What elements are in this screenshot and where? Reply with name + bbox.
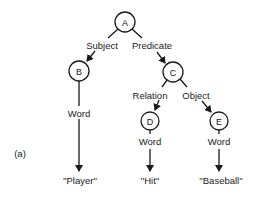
panel-label: (a) bbox=[14, 148, 26, 159]
node-c-label: C bbox=[170, 68, 177, 78]
edge-label-relation: Relation bbox=[133, 90, 168, 101]
edge-relation: Relation bbox=[133, 80, 168, 110]
edge-predicate-arrow bbox=[157, 52, 165, 63]
edge-subject: Subject bbox=[86, 29, 118, 61]
edge-relation-upper bbox=[162, 80, 167, 87]
edge-word-player: Word bbox=[68, 81, 91, 171]
edge-word-hit: Word bbox=[139, 130, 162, 171]
leaf-player: ''Player'' bbox=[63, 175, 97, 186]
edge-label-object: Object bbox=[182, 90, 210, 101]
node-a: A bbox=[115, 12, 135, 32]
edge-relation-arrow bbox=[155, 100, 159, 110]
edge-object: Object bbox=[180, 79, 211, 112]
node-b-label: B bbox=[76, 67, 82, 77]
edge-object-upper bbox=[180, 79, 187, 87]
node-d-label: D bbox=[147, 117, 154, 127]
node-a-label: A bbox=[122, 18, 128, 28]
edge-label-word-d: Word bbox=[139, 136, 162, 147]
node-d: D bbox=[141, 112, 159, 130]
node-e-label: E bbox=[216, 117, 222, 127]
edge-predicate: Predicate bbox=[132, 29, 172, 63]
edge-subject-upper bbox=[108, 29, 118, 38]
edge-subject-arrow bbox=[87, 51, 95, 61]
edge-label-subject: Subject bbox=[86, 40, 118, 51]
edge-object-arrow bbox=[202, 101, 211, 112]
node-e: E bbox=[210, 112, 228, 130]
node-c: C bbox=[163, 62, 183, 82]
edge-label-predicate: Predicate bbox=[132, 40, 172, 51]
node-b: B bbox=[69, 61, 89, 81]
semantic-tree-diagram: Subject Predicate Relation Object Word W… bbox=[0, 0, 257, 197]
edge-word-baseball: Word bbox=[208, 130, 231, 171]
leaf-hit: ''Hit'' bbox=[141, 175, 160, 186]
leaf-baseball: ''Baseball'' bbox=[199, 175, 243, 186]
edge-label-word-e: Word bbox=[208, 136, 231, 147]
edge-predicate-upper bbox=[132, 29, 142, 38]
edge-label-word-b: Word bbox=[68, 108, 91, 119]
